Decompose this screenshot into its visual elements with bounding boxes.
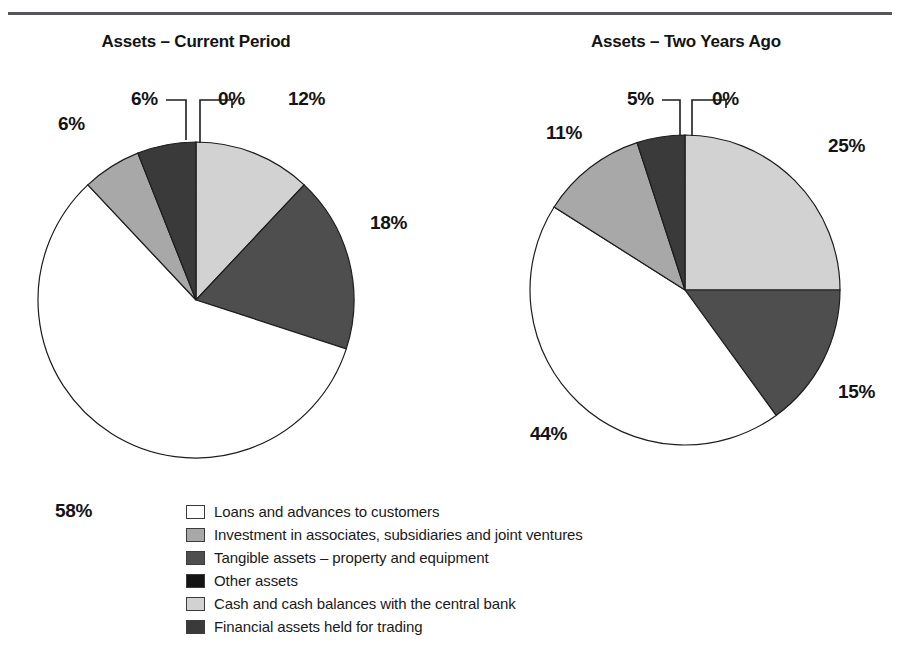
pie-slice-loans-advances [530, 207, 776, 445]
legend-label: Cash and cash balances with the central … [214, 595, 516, 612]
pie-slice-loans-advances [38, 185, 346, 458]
pie-chart-left [38, 142, 354, 458]
legend-swatch-icon [186, 528, 205, 542]
legend-item-loans-advances[interactable]: Loans and advances to customers [186, 500, 706, 523]
pie-slice-financial-assets [138, 142, 196, 300]
slice-label-other-assets: 0% [218, 88, 245, 110]
pie-slice-tangible-assets [685, 290, 840, 415]
pie-slice-cash-balances [685, 135, 840, 290]
legend-item-tangible-assets[interactable]: Tangible assets – property and equipment [186, 546, 706, 569]
legend-label: Tangible assets – property and equipment [214, 549, 489, 566]
leader-line-left-financial-assets [166, 100, 186, 140]
chart-page: Assets – Current Period Assets – Two Yea… [0, 0, 899, 667]
legend-label: Investment in associates, subsidiaries a… [214, 526, 583, 543]
legend-item-cash-balances[interactable]: Cash and cash balances with the central … [186, 592, 706, 615]
pie-slice-financial-assets [637, 135, 685, 290]
pie-slice-investment-assoc [554, 143, 685, 290]
pie-slice-investment-assoc [88, 153, 196, 300]
chart-title-right: Assets – Two Years Ago [530, 32, 842, 52]
slice-label-loans-advances: 58% [55, 500, 92, 522]
slice-label-investment-assoc: 6% [58, 113, 85, 135]
pie-slice-tangible-assets [196, 185, 354, 349]
legend-label: Financial assets held for trading [214, 618, 422, 635]
slice-label-financial-assets: 6% [131, 88, 158, 110]
legend-item-financial-assets[interactable]: Financial assets held for trading [186, 615, 706, 638]
chart-legend: Loans and advances to customersInvestmen… [186, 500, 706, 638]
legend-item-other-assets[interactable]: Other assets [186, 569, 706, 592]
pie-chart-right [530, 135, 840, 445]
slice-label-financial-assets: 5% [627, 88, 654, 110]
slice-label-cash-balances: 25% [828, 135, 865, 157]
chart-title-left: Assets – Current Period [40, 32, 352, 52]
slice-label-tangible-assets: 18% [370, 212, 407, 234]
pie-slice-cash-balances [196, 142, 304, 300]
legend-label: Other assets [214, 572, 298, 589]
legend-item-investment-assoc[interactable]: Investment in associates, subsidiaries a… [186, 523, 706, 546]
legend-swatch-icon [186, 551, 205, 565]
legend-swatch-icon [186, 505, 205, 519]
legend-swatch-icon [186, 620, 205, 634]
legend-swatch-icon [186, 597, 205, 611]
slice-label-other-assets: 0% [712, 88, 739, 110]
header-rule [8, 12, 892, 15]
legend-swatch-icon [186, 574, 205, 588]
legend-label: Loans and advances to customers [214, 503, 439, 520]
slice-label-tangible-assets: 15% [838, 381, 875, 403]
slice-label-loans-advances: 44% [530, 423, 567, 445]
leader-line-right-financial-assets [662, 100, 680, 136]
slice-label-investment-assoc: 11% [546, 122, 582, 144]
slice-label-cash-balances: 12% [288, 88, 325, 110]
